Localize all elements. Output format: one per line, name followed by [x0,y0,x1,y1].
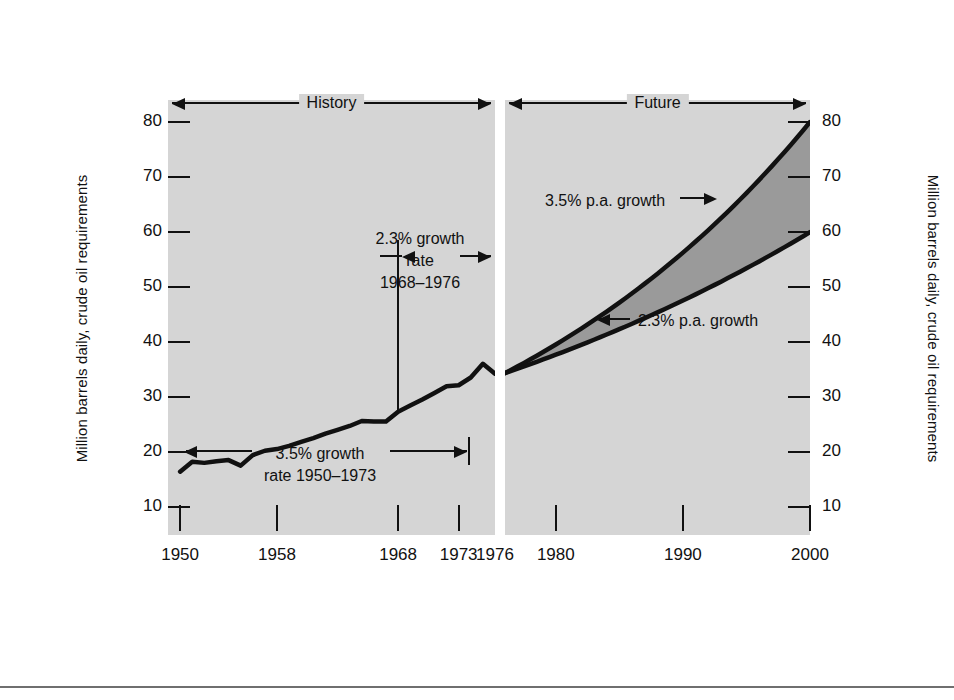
annotation-23-arrow-right-icon [478,251,491,263]
y-tick-mark-left-70 [168,176,190,178]
y-tick-mark-right-30 [788,396,810,398]
marker-line-1973 [468,437,470,465]
x-tick-label-1973: 1973 [440,545,478,565]
future-panel-label: Future [626,94,688,112]
annotation-23-growth-line2: rate [406,250,434,271]
y-tick-label-left-30: 30 [122,386,162,406]
y-tick-label-left-80: 80 [122,111,162,131]
y-axis-title-left: Million barrels daily, crude oil require… [73,104,90,534]
y-tick-label-left-10: 10 [122,496,162,516]
y-tick-mark-right-40 [788,341,810,343]
x-tick-mark-2000 [809,505,811,531]
annotation-35-arrow-left-icon [184,446,197,458]
x-tick-mark-1968 [397,505,399,531]
y-tick-mark-right-50 [788,286,810,288]
y-tick-label-left-50: 50 [122,276,162,296]
y-tick-label-right-50: 50 [822,276,862,296]
y-tick-label-right-60: 60 [822,221,862,241]
y-tick-label-right-80: 80 [822,111,862,131]
y-tick-label-right-30: 30 [822,386,862,406]
annotation-future-upper-growth: 3.5% p.a. growth [545,190,665,211]
x-tick-label-1990: 1990 [664,545,702,565]
history-span-arrow-left-icon [172,98,185,110]
y-tick-label-left-60: 60 [122,221,162,241]
y-tick-label-left-20: 20 [122,441,162,461]
y-tick-mark-right-10 [788,506,810,508]
history-panel-label: History [299,94,365,112]
x-tick-label-2000: 2000 [791,545,829,565]
y-tick-label-left-40: 40 [122,331,162,351]
y-tick-label-left-70: 70 [122,166,162,186]
y-tick-mark-left-40 [168,341,190,343]
annotation-future-lower-arrow-icon [597,314,610,326]
y-tick-mark-right-20 [788,451,810,453]
annotation-35-growth-line2: rate 1950–1973 [264,465,376,486]
y-tick-mark-left-50 [168,286,190,288]
x-tick-mark-1950 [179,505,181,531]
x-tick-label-1980: 1980 [537,545,575,565]
x-tick-label-1968: 1968 [379,545,417,565]
y-tick-mark-left-60 [168,231,190,233]
annotation-23-span-left [380,255,402,257]
x-tick-mark-1980 [555,505,557,531]
x-tick-label-1958: 1958 [258,545,296,565]
x-tick-mark-1958 [276,505,278,531]
x-tick-label-1976: 1976 [476,545,514,565]
y-tick-label-right-40: 40 [822,331,862,351]
annotation-35-arrow-right-icon [454,446,467,458]
annotation-future-upper-arrow-icon [704,193,717,205]
y-tick-mark-left-80 [168,121,190,123]
x-tick-mark-1973 [458,505,460,531]
y-axis-title-right: Million barrels daily, crude oil require… [925,104,942,534]
y-tick-label-right-10: 10 [822,496,862,516]
annotation-future-lower-growth: 2.3% p.a. growth [638,310,758,331]
future-growth-band [505,122,810,373]
y-tick-mark-right-80 [788,121,810,123]
y-tick-mark-right-60 [788,231,810,233]
y-tick-mark-right-70 [788,176,810,178]
future-span-arrow-left-icon [509,98,522,110]
annotation-35-growth-line1: 3.5% growth [276,443,365,464]
annotation-future-upper-leader [680,197,706,199]
future-span-arrow-right-icon [793,98,806,110]
figure-root: Million barrels daily, crude oil require… [0,0,954,700]
annotation-23-growth-line1: 2.3% growth [376,228,465,249]
marker-line-1968 [397,240,399,412]
y-tick-label-right-70: 70 [822,166,862,186]
history-span-arrow-right-icon [478,98,491,110]
annotation-23-growth-line3: 1968–1976 [380,272,460,293]
x-tick-mark-1990 [682,505,684,531]
y-tick-label-right-20: 20 [822,441,862,461]
footer-divider [0,686,954,688]
y-tick-mark-left-30 [168,396,190,398]
x-tick-label-1950: 1950 [161,545,199,565]
